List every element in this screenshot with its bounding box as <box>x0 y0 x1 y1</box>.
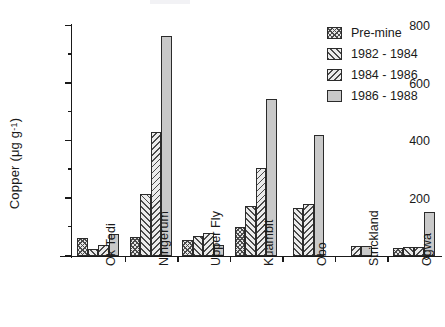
copper-bar-chart-figure: Copper (μg g-1) 0200400600800 Pre-mine19… <box>0 0 445 327</box>
x-axis-category-label: Strickland <box>367 210 381 266</box>
bar <box>235 227 246 256</box>
bar <box>88 249 99 256</box>
x-axis-category-label: Ningerum <box>157 211 171 266</box>
y-axis-major-tick <box>65 82 72 83</box>
legend-label: 1982 - 1984 <box>351 47 418 61</box>
bar <box>351 246 362 256</box>
bar <box>193 236 204 256</box>
bar <box>393 248 404 256</box>
legend-label: 1984 - 1986 <box>351 68 418 82</box>
y-axis-major-tick <box>65 255 72 256</box>
y-axis-major-tick <box>65 140 72 141</box>
x-axis-group-tick <box>177 256 178 262</box>
bar <box>140 194 151 256</box>
x-axis-group-tick <box>230 256 231 262</box>
x-axis-category-label: Ogwa <box>420 233 434 266</box>
legend-swatch-solid-grey <box>327 90 342 102</box>
legend: Pre-mine1982 - 19841984 - 19861986 - 198… <box>327 26 418 102</box>
x-axis-category-label: Obo <box>315 242 329 266</box>
legend-swatch-forward-diagonal-hatch <box>327 48 342 60</box>
y-axis-label-exponent: -1 <box>9 122 19 130</box>
y-axis-label-text: Copper (μg g <box>7 131 22 210</box>
bar <box>182 240 193 256</box>
legend-swatch-cross-hatch <box>327 27 342 39</box>
x-axis-group-tick <box>387 256 388 262</box>
x-axis-category-label: Upper Fly <box>209 211 223 266</box>
x-axis-category-label: Ok Tedi <box>104 223 118 266</box>
x-axis-category-label: Kuambit <box>262 219 276 266</box>
x-axis-group-tick <box>282 256 283 262</box>
x-axis-group-tick <box>125 256 126 262</box>
bar <box>314 135 325 256</box>
bar-group <box>72 26 125 256</box>
y-axis-label: Copper (μg g-1) <box>0 0 28 327</box>
legend-label: Pre-mine <box>351 26 402 40</box>
y-axis-major-tick <box>65 25 72 26</box>
legend-item: Pre-mine <box>327 26 418 39</box>
bar <box>293 208 304 256</box>
bar <box>403 247 414 256</box>
y-axis-major-tick <box>65 197 72 198</box>
legend-label: 1986 - 1988 <box>351 89 418 103</box>
legend-item: 1986 - 1988 <box>327 89 418 102</box>
bar <box>245 206 256 256</box>
bar <box>130 237 141 256</box>
legend-item: 1982 - 1984 <box>327 47 418 60</box>
y-axis-label-paren: ) <box>7 118 22 123</box>
bar <box>77 238 88 256</box>
x-axis-group-tick <box>335 256 336 262</box>
cropped-top-artifact <box>150 0 190 4</box>
legend-item: 1984 - 1986 <box>327 68 418 81</box>
bar <box>303 204 314 256</box>
legend-swatch-backward-diagonal-hatch <box>327 69 342 81</box>
